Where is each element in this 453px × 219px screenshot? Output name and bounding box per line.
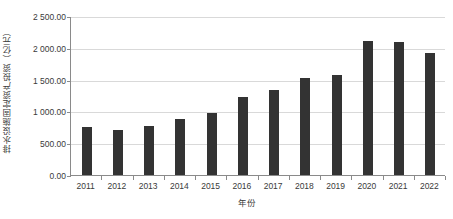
x-axis-tick-label: 2019: [326, 182, 345, 191]
x-axis-tick-label: 2015: [201, 182, 220, 191]
x-axis-tick-mark: [164, 176, 165, 180]
x-axis-tick-mark: [445, 176, 446, 180]
x-axis-tick-mark: [101, 176, 102, 180]
bar: [300, 78, 310, 175]
bar: [113, 130, 123, 175]
y-axis-tick-label: 1 000.00: [33, 108, 66, 117]
x-axis-title-label: 年份: [238, 199, 256, 208]
x-axis-tick-labels: 2011201220132014201520162017201820192020…: [70, 182, 445, 196]
bar: [269, 90, 279, 175]
x-axis-tick-mark: [351, 176, 352, 180]
x-axis-tick-mark: [258, 176, 259, 180]
bar: [175, 119, 185, 175]
x-axis-tick-label: 2022: [420, 182, 439, 191]
x-axis-tick-label: 2021: [389, 182, 408, 191]
x-axis-title: 年份: [0, 199, 453, 208]
y-axis-tick-label: 1 500.00: [33, 76, 66, 85]
y-axis-tick-label: 0.00: [49, 172, 66, 181]
x-axis-tick-label: 2012: [107, 182, 126, 191]
bar: [238, 97, 248, 175]
x-axis-tick-marks: [70, 176, 445, 180]
x-axis-tick-label: 2013: [139, 182, 158, 191]
bar-chart: 排水设施固定资产投资（亿元） 0.00500.001 000.001 500.0…: [0, 0, 453, 219]
x-axis-tick-mark: [133, 176, 134, 180]
y-axis-tick-labels: 0.00500.001 000.001 500.002 000.002 500.…: [14, 0, 68, 185]
x-axis-tick-mark: [289, 176, 290, 180]
bar: [207, 113, 217, 175]
x-axis-tick-mark: [195, 176, 196, 180]
x-axis-tick-label: 2018: [295, 182, 314, 191]
x-axis-tick-label: 2014: [170, 182, 189, 191]
bars-layer: [71, 17, 445, 175]
x-axis-tick-mark: [383, 176, 384, 180]
bar: [82, 127, 92, 175]
x-axis-tick-label: 2016: [232, 182, 251, 191]
x-axis-tick-label: 2020: [357, 182, 376, 191]
y-axis-tick-label: 2 000.00: [33, 45, 66, 54]
bar: [332, 75, 342, 175]
bar: [394, 42, 404, 175]
x-axis-tick-mark: [226, 176, 227, 180]
y-axis-title-label: 排水设施固定资产投资（亿元）: [4, 27, 13, 153]
x-axis-tick-mark: [414, 176, 415, 180]
bar: [144, 126, 154, 175]
x-axis-tick-mark: [320, 176, 321, 180]
x-axis-tick-label: 2017: [264, 182, 283, 191]
y-axis-tick-label: 2 500.00: [33, 13, 66, 22]
plot-area: [70, 17, 445, 176]
x-axis-tick-label: 2011: [76, 182, 94, 191]
bar: [363, 41, 373, 176]
y-axis-tick-label: 500.00: [40, 140, 66, 149]
bar: [425, 53, 435, 175]
